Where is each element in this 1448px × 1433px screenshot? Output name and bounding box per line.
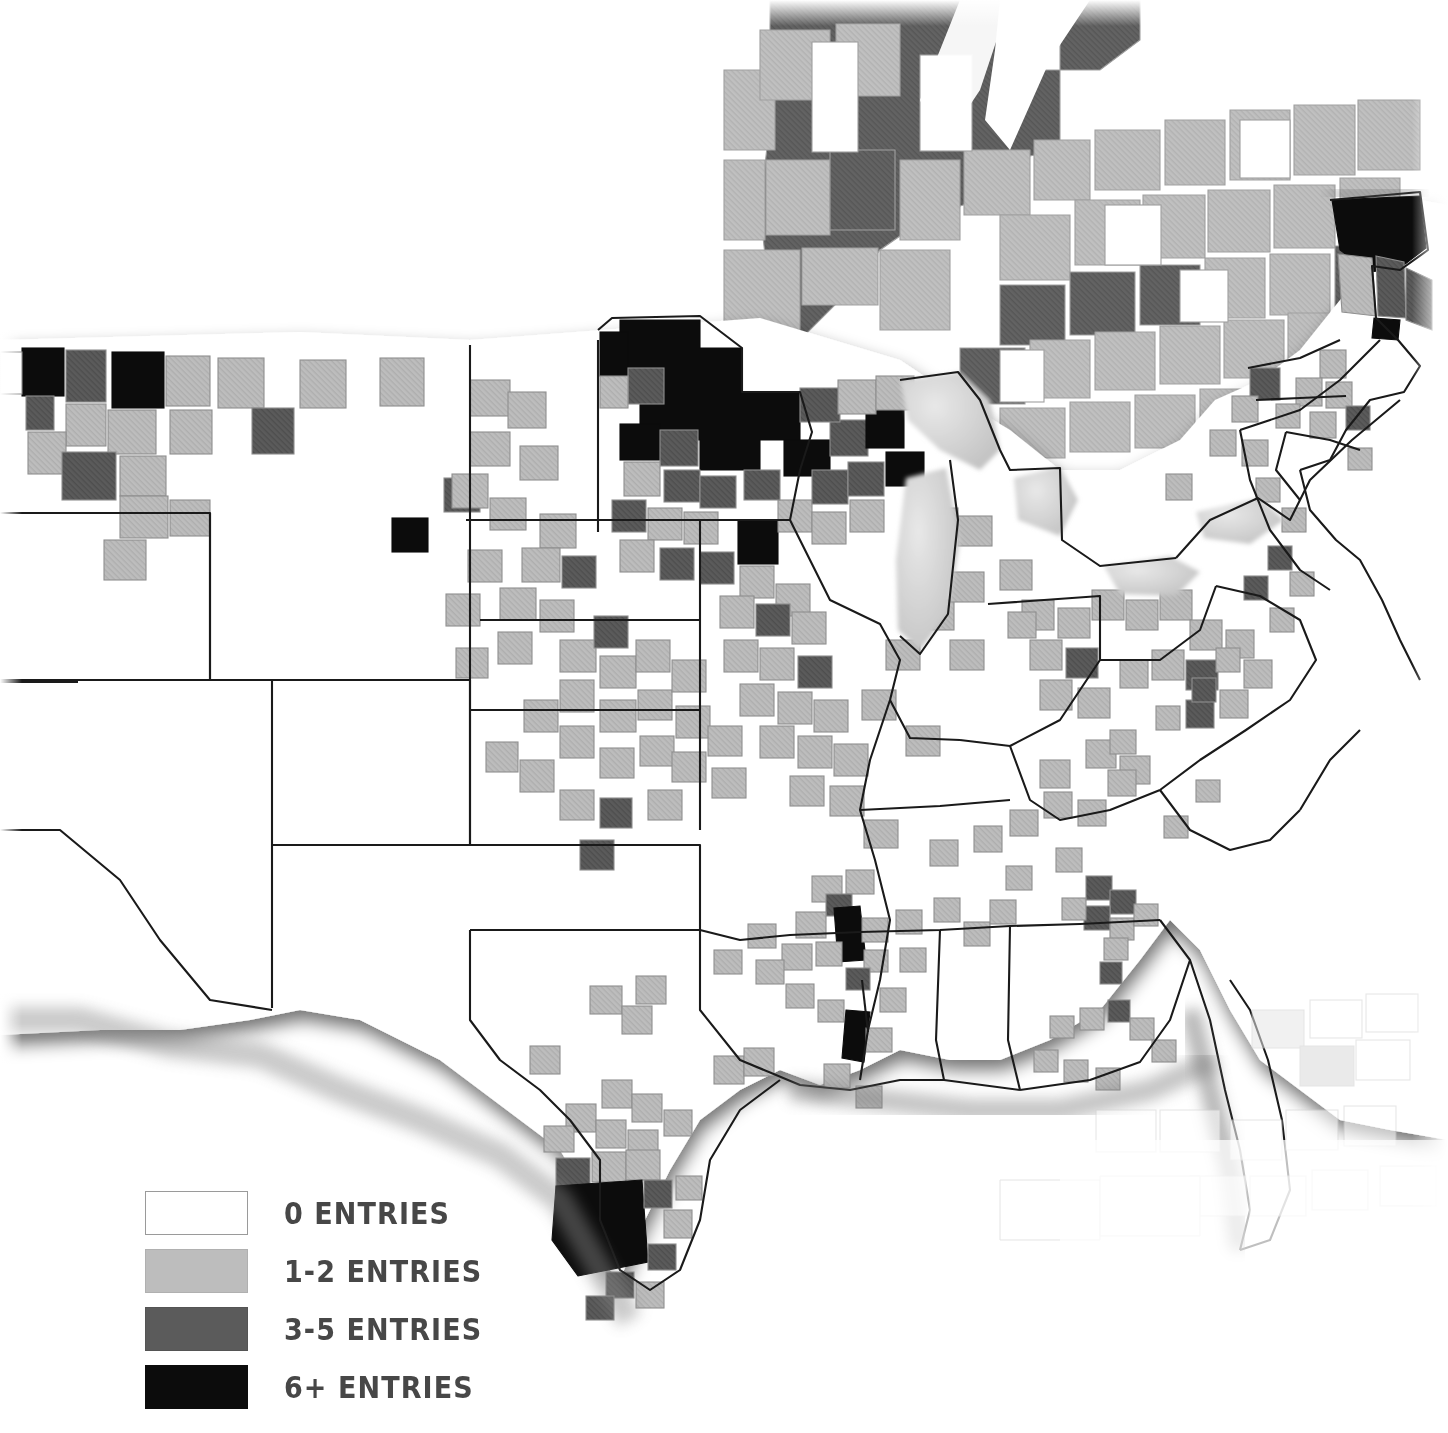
legend-item-0: 0 ENTRIES [145, 1184, 545, 1242]
legend-swatch-3-5-entries [145, 1307, 248, 1351]
legend-swatch-0-entries [145, 1191, 248, 1235]
legend-swatch-1-2-entries [145, 1249, 248, 1293]
map-legend: 0 ENTRIES 1-2 ENTRIES 3-5 ENTRIES 6+ ENT… [145, 1184, 545, 1416]
legend-swatch-6-plus-entries [145, 1365, 248, 1409]
legend-label-6-plus-entries: 6+ ENTRIES [284, 1370, 474, 1405]
map-page: 0 ENTRIES 1-2 ENTRIES 3-5 ENTRIES 6+ ENT… [0, 0, 1448, 1433]
legend-label-1-2-entries: 1-2 ENTRIES [284, 1254, 482, 1289]
legend-item-2: 3-5 ENTRIES [145, 1300, 545, 1358]
legend-item-1: 1-2 ENTRIES [145, 1242, 545, 1300]
legend-label-3-5-entries: 3-5 ENTRIES [284, 1312, 482, 1347]
legend-item-3: 6+ ENTRIES [145, 1358, 545, 1416]
legend-label-0-entries: 0 ENTRIES [284, 1196, 450, 1231]
